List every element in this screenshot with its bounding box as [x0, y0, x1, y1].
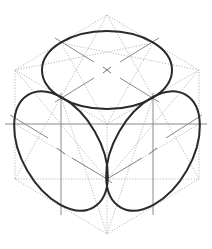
left-face-ellipse [0, 75, 127, 227]
isometric-cube-diagram [0, 0, 212, 249]
right-face-ellipse [87, 75, 212, 227]
cube-inner-edges [15, 70, 199, 234]
center-mark-top-icon [103, 67, 111, 73]
